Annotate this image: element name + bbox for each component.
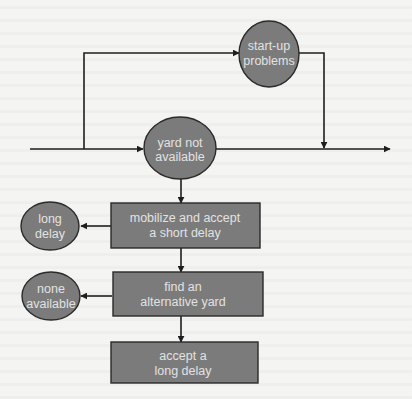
mobilize-label-line2: a short delay <box>149 226 221 240</box>
accept-long-delay-label-line2: long delay <box>155 364 213 378</box>
find-alternative-label-line2: alternative yard <box>140 295 226 309</box>
find-alternative-label-line1: find an <box>164 280 202 294</box>
none-available-ellipse <box>22 272 80 320</box>
long-delay-ellipse <box>21 202 79 250</box>
node-yard-not-available: yard not available <box>144 117 216 179</box>
mobilize-label-line1: mobilize and accept <box>130 211 241 225</box>
startup-problems-label-line2: problems <box>243 54 294 68</box>
long-delay-label-line2: delay <box>35 227 66 241</box>
flowchart: start-up problems yard not available mob… <box>0 0 412 399</box>
find-alternative-box <box>113 272 263 316</box>
yard-not-available-label-line1: yard not <box>157 136 203 150</box>
long-delay-label-line1: long <box>38 212 62 226</box>
startup-problems-label-line1: start-up <box>248 39 290 53</box>
accept-long-delay-label-line1: accept a <box>159 349 206 363</box>
node-long-delay: long delay <box>21 202 79 250</box>
yard-not-available-label-line2: available <box>155 150 204 164</box>
node-mobilize: mobilize and accept a short delay <box>111 203 260 248</box>
node-find-alternative: find an alternative yard <box>113 272 263 316</box>
none-available-label-line1: none <box>37 282 65 296</box>
node-startup-problems: start-up problems <box>239 21 299 87</box>
none-available-label-line2: available <box>26 297 75 311</box>
node-accept-long-delay: accept a long delay <box>111 342 258 383</box>
node-none-available: none available <box>22 272 80 320</box>
edge-startup-to-mainline <box>298 53 324 148</box>
